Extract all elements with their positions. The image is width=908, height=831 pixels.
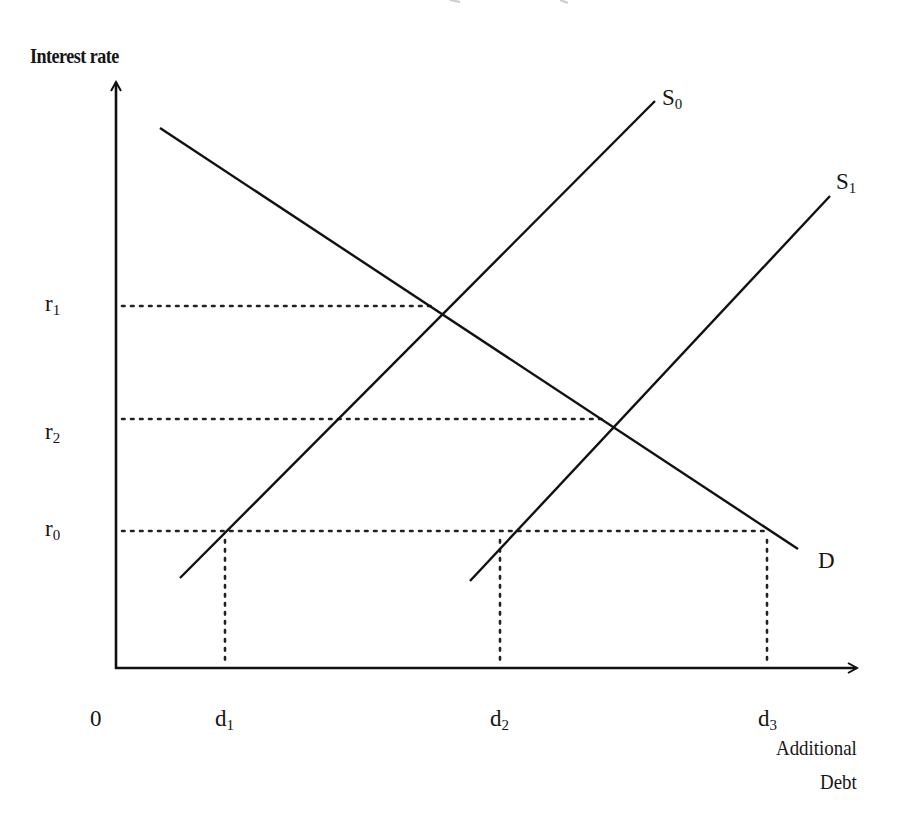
supply-curve-s0 bbox=[180, 101, 655, 578]
x-tick-d1: d1 bbox=[215, 707, 234, 733]
x-axis-title-line2: Debt bbox=[820, 772, 857, 793]
x-axis-title-line1: Additional bbox=[776, 738, 857, 759]
supply-label-s1-sub: 1 bbox=[849, 180, 857, 196]
y-tick-r1: r1 bbox=[45, 292, 60, 318]
y-tick-r2-sub: 2 bbox=[53, 430, 61, 446]
y-tick-r0-base: r bbox=[45, 516, 53, 541]
x-tick-d2-sub: 2 bbox=[502, 717, 510, 733]
supply-label-s1: S1 bbox=[836, 170, 856, 196]
supply-demand-debt-diagram: Interest rate r1 r2 r0 0 d1 d2 d3 Additi… bbox=[0, 0, 908, 831]
x-tick-d1-sub: 1 bbox=[227, 717, 235, 733]
demand-label: D bbox=[818, 549, 835, 572]
y-axis-title: Interest rate bbox=[30, 46, 119, 67]
y-tick-r0-sub: 0 bbox=[53, 527, 61, 543]
top-text-fragment bbox=[450, 0, 568, 3]
x-tick-d3: d3 bbox=[758, 707, 777, 733]
y-tick-r0: r0 bbox=[45, 517, 60, 543]
supply-label-s1-base: S bbox=[836, 169, 849, 194]
supply-curve-s1 bbox=[470, 196, 830, 581]
y-tick-r2-base: r bbox=[45, 419, 53, 444]
origin-label: 0 bbox=[90, 707, 102, 730]
supply-label-s0-sub: 0 bbox=[675, 96, 683, 112]
demand-curve bbox=[160, 128, 798, 549]
x-tick-d3-base: d bbox=[758, 706, 770, 731]
supply-label-s0: S0 bbox=[662, 86, 682, 112]
x-tick-d2: d2 bbox=[490, 707, 509, 733]
y-tick-r1-base: r bbox=[45, 291, 53, 316]
y-tick-r2: r2 bbox=[45, 420, 60, 446]
supply-label-s0-base: S bbox=[662, 85, 675, 110]
x-tick-d3-sub: 3 bbox=[770, 717, 778, 733]
x-tick-d1-base: d bbox=[215, 706, 227, 731]
y-tick-r1-sub: 1 bbox=[53, 302, 61, 318]
x-tick-d2-base: d bbox=[490, 706, 502, 731]
